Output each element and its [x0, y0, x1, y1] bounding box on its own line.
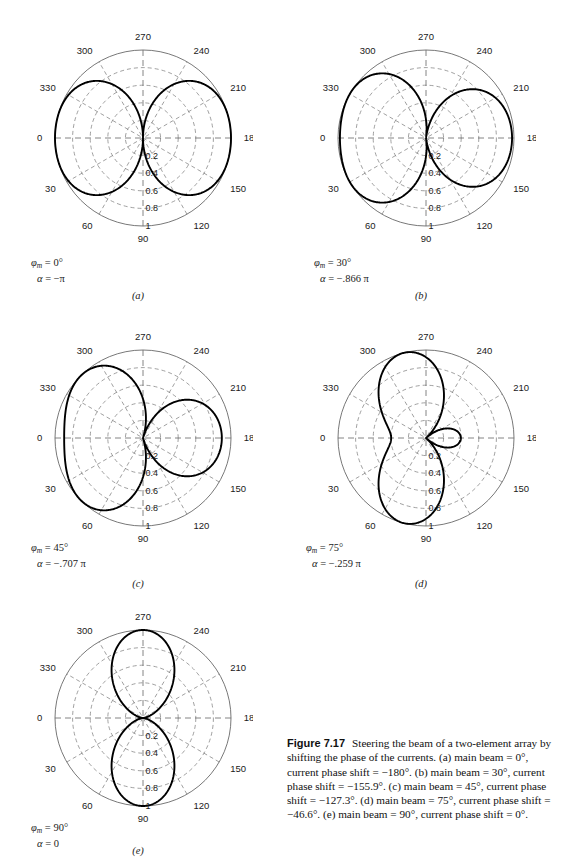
svg-text:330: 330: [323, 382, 339, 393]
svg-text:300: 300: [360, 345, 376, 356]
alpha-value-a: = −π: [45, 273, 65, 284]
svg-text:180: 180: [244, 432, 253, 443]
panel-label-e: (e): [123, 845, 153, 856]
polar-plot-a: 03060901201501802102402703003300.20.40.6…: [33, 28, 253, 248]
alpha-symbol-d: α: [312, 558, 318, 569]
phi-value-e: = 90°: [45, 822, 68, 833]
svg-text:90: 90: [138, 813, 149, 824]
annotation-b: φm = 30° α = −.866 π: [314, 257, 369, 285]
svg-text:150: 150: [230, 483, 246, 494]
svg-text:0.2: 0.2: [429, 151, 442, 161]
svg-text:180: 180: [527, 132, 536, 143]
svg-text:150: 150: [513, 483, 529, 494]
svg-text:120: 120: [193, 520, 209, 531]
svg-text:120: 120: [193, 800, 209, 811]
panel-label-b: (b): [406, 290, 436, 301]
svg-text:330: 330: [40, 382, 56, 393]
svg-text:120: 120: [476, 520, 492, 531]
svg-text:30: 30: [328, 483, 339, 494]
svg-text:270: 270: [418, 331, 434, 342]
svg-text:210: 210: [230, 82, 246, 93]
svg-text:0.8: 0.8: [429, 503, 442, 513]
phi-value-d: = 75°: [320, 542, 343, 553]
phi-subscript-d: m: [312, 546, 317, 555]
phi-subscript-e: m: [37, 826, 42, 835]
panel-label-c: (c): [123, 578, 153, 589]
svg-text:180: 180: [244, 712, 253, 723]
svg-text:330: 330: [323, 82, 339, 93]
polar-svg-e: 03060901201501802102402703003300.20.40.6…: [33, 608, 253, 828]
svg-text:210: 210: [230, 382, 246, 393]
phi-value-c: = 45°: [45, 542, 68, 553]
svg-text:0.8: 0.8: [146, 203, 159, 213]
svg-text:0.2: 0.2: [146, 731, 159, 741]
svg-text:1: 1: [146, 221, 151, 231]
svg-text:240: 240: [193, 625, 209, 636]
svg-text:180: 180: [527, 432, 536, 443]
polar-svg-a: 03060901201501802102402703003300.20.40.6…: [33, 28, 253, 248]
alpha-value-c: = −.707 π: [45, 558, 86, 569]
figure-number: Figure 7.17: [287, 737, 345, 749]
svg-text:180: 180: [244, 132, 253, 143]
figure-container: 03060901201501802102402703003300.20.40.6…: [0, 0, 566, 863]
svg-text:120: 120: [193, 220, 209, 231]
annotation-d: φm = 75° α = −.259 π: [306, 542, 361, 570]
alpha-symbol-c: α: [37, 558, 43, 569]
svg-text:0.4: 0.4: [146, 168, 159, 178]
svg-text:0.4: 0.4: [146, 748, 159, 758]
panel-label-d: (d): [406, 578, 436, 589]
svg-text:270: 270: [135, 611, 151, 622]
svg-text:270: 270: [135, 331, 151, 342]
svg-text:1: 1: [429, 521, 434, 531]
svg-text:60: 60: [82, 520, 93, 531]
svg-text:60: 60: [82, 800, 93, 811]
svg-text:210: 210: [230, 662, 246, 673]
svg-text:330: 330: [40, 82, 56, 93]
polar-plot-e: 03060901201501802102402703003300.20.40.6…: [33, 608, 253, 828]
svg-text:0.6: 0.6: [429, 486, 442, 496]
svg-text:0.4: 0.4: [146, 468, 159, 478]
svg-text:0.4: 0.4: [429, 168, 442, 178]
svg-text:240: 240: [193, 345, 209, 356]
alpha-value-e: = 0: [45, 838, 59, 849]
svg-text:1: 1: [146, 521, 151, 531]
svg-text:30: 30: [45, 183, 56, 194]
svg-text:60: 60: [365, 520, 376, 531]
polar-svg-d: 03060901201501802102402703003300.20.40.6…: [316, 328, 536, 548]
svg-text:0: 0: [37, 132, 42, 143]
phi-subscript-b: m: [320, 261, 325, 270]
svg-text:270: 270: [418, 31, 434, 42]
alpha-symbol-b: α: [320, 273, 326, 284]
phi-subscript-a: m: [37, 261, 42, 270]
svg-text:30: 30: [328, 183, 339, 194]
alpha-symbol-e: α: [37, 838, 43, 849]
svg-text:90: 90: [421, 533, 432, 544]
svg-text:0.6: 0.6: [146, 486, 159, 496]
svg-text:0.6: 0.6: [429, 186, 442, 196]
svg-text:0: 0: [37, 712, 42, 723]
svg-text:0.6: 0.6: [146, 766, 159, 776]
pattern-curve-a: [55, 81, 231, 195]
panel-label-a: (a): [123, 290, 153, 301]
svg-text:0.2: 0.2: [146, 151, 159, 161]
annotation-a: φm = 0° α = −π: [31, 257, 65, 285]
svg-text:120: 120: [476, 220, 492, 231]
polar-svg-b: 03060901201501802102402703003300.20.40.6…: [316, 28, 536, 248]
polar-plot-b: 03060901201501802102402703003300.20.40.6…: [316, 28, 536, 248]
svg-text:90: 90: [421, 233, 432, 244]
alpha-value-b: = −.866 π: [328, 273, 369, 284]
svg-text:60: 60: [365, 220, 376, 231]
svg-text:300: 300: [77, 345, 93, 356]
svg-text:0.8: 0.8: [146, 503, 159, 513]
polar-svg-c: 03060901201501802102402703003300.20.40.6…: [33, 328, 253, 548]
phi-value-b: = 30°: [328, 257, 351, 268]
polar-plot-d: 03060901201501802102402703003300.20.40.6…: [316, 328, 536, 548]
alpha-value-d: = −.259 π: [320, 558, 361, 569]
polar-plot-c: 03060901201501802102402703003300.20.40.6…: [33, 328, 253, 548]
svg-text:270: 270: [135, 31, 151, 42]
svg-text:210: 210: [513, 82, 529, 93]
svg-text:210: 210: [513, 382, 529, 393]
svg-text:150: 150: [230, 183, 246, 194]
svg-text:1: 1: [429, 221, 434, 231]
svg-text:330: 330: [40, 662, 56, 673]
